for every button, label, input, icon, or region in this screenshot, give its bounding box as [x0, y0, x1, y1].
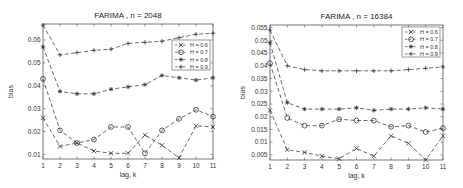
y-tick-label: 0.03	[255, 88, 268, 95]
y-tick-label: 0.06	[28, 36, 41, 43]
x-tick-label: 1	[41, 162, 45, 169]
x-tick-label: 7	[372, 163, 376, 170]
figure: FARIMA , n = 204812345678910110.010.020.…	[0, 0, 463, 188]
legend-entry: H = 0.7	[420, 36, 438, 42]
y-axis-label: bias	[239, 86, 246, 99]
x-tick-label: 2	[285, 163, 289, 170]
y-axis-label: bias	[7, 85, 14, 98]
x-tick-label: 9	[177, 162, 181, 169]
x-tick-label: 7	[143, 162, 147, 169]
x-axis-label: lag, k	[120, 171, 137, 179]
legend-entry: H = 0.9	[420, 51, 438, 57]
legend-entry: H = 0.9	[190, 64, 208, 70]
legend-entry: H = 0.7	[190, 49, 208, 55]
x-tick-label: 2	[58, 162, 62, 169]
y-tick-label: 0.02	[255, 113, 268, 120]
y-tick-label: 0.045	[251, 49, 268, 56]
x-tick-label: 11	[440, 163, 447, 170]
x-tick-label: 11	[210, 162, 217, 169]
x-tick-label: 1	[268, 163, 272, 170]
chart-right: FARIMA , n = 1638412345678910110.0050.01…	[239, 12, 447, 180]
x-tick-label: 8	[389, 163, 393, 170]
x-tick-label: 3	[75, 162, 79, 169]
y-tick-label: 0.04	[255, 62, 268, 69]
x-axis-label: lag, k	[348, 172, 365, 180]
y-tick-label: 0.05	[255, 37, 268, 44]
y-tick-label: 0.02	[28, 128, 41, 135]
x-tick-label: 4	[320, 163, 324, 170]
x-tick-label: 10	[192, 162, 200, 169]
x-tick-label: 5	[337, 163, 341, 170]
legend: H = 0.6H = 0.7H = 0.8H = 0.9	[172, 40, 210, 70]
legend-entry: H = 0.8	[190, 57, 208, 63]
x-tick-label: 6	[126, 162, 130, 169]
legend-entry: H = 0.8	[420, 44, 438, 50]
y-tick-label: 0.05	[28, 59, 41, 66]
x-tick-label: 8	[160, 162, 164, 169]
y-tick-label: 0.055	[251, 24, 268, 31]
y-tick-label: 0.04	[28, 82, 41, 89]
x-tick-label: 9	[407, 163, 411, 170]
y-tick-label: 0.01	[255, 138, 268, 145]
y-tick-label: 0.025	[251, 100, 268, 107]
y-tick-label: 0.035	[251, 75, 268, 82]
x-tick-label: 4	[92, 162, 96, 169]
chart-title: FARIMA , n = 2048	[94, 11, 162, 20]
y-tick-label: 0.01	[28, 151, 41, 158]
x-tick-label: 10	[422, 163, 430, 170]
legend-entry: H = 0.6	[190, 42, 208, 48]
x-tick-label: 6	[355, 163, 359, 170]
x-tick-label: 5	[109, 162, 113, 169]
x-tick-label: 3	[303, 163, 307, 170]
y-tick-label: 0.005	[251, 151, 268, 158]
legend-entry: H = 0.6	[420, 29, 438, 35]
y-tick-label: 0.015	[251, 126, 268, 133]
legend: H = 0.6H = 0.7H = 0.8H = 0.9	[402, 27, 440, 57]
y-tick-label: 0.03	[28, 105, 41, 112]
chart-left: FARIMA , n = 204812345678910110.010.020.…	[7, 11, 217, 179]
chart-title: FARIMA , n = 16384	[321, 12, 393, 21]
